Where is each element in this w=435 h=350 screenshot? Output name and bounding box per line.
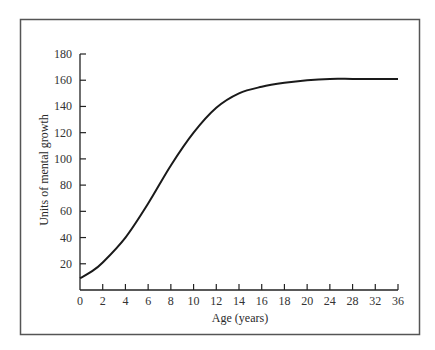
y-tick-label: 100 xyxy=(54,152,72,166)
x-tick-label: 4 xyxy=(122,294,128,308)
x-tick-label: 24 xyxy=(324,294,336,308)
y-tick-label: 180 xyxy=(54,47,72,61)
y-axis-title: Units of mental growth xyxy=(37,114,51,226)
growth-curve xyxy=(80,79,398,278)
x-tick-label: 6 xyxy=(145,294,151,308)
axes xyxy=(80,54,398,290)
y-tick-label: 40 xyxy=(60,231,72,245)
x-tick-label: 32 xyxy=(369,294,381,308)
x-tick-label: 14 xyxy=(233,294,245,308)
x-tick-label: 2 xyxy=(100,294,106,308)
y-tick-label: 20 xyxy=(60,257,72,271)
x-tick-label: 16 xyxy=(256,294,268,308)
x-tick-label: 12 xyxy=(210,294,222,308)
x-tick-label: 18 xyxy=(278,294,290,308)
x-tick-label: 0 xyxy=(77,294,83,308)
x-axis-ticks: 0246810121416182024283236 xyxy=(77,284,404,308)
x-axis-title: Age (years) xyxy=(212,311,268,325)
y-tick-label: 120 xyxy=(54,126,72,140)
x-tick-label: 28 xyxy=(347,294,359,308)
x-tick-label: 36 xyxy=(392,294,404,308)
y-tick-label: 160 xyxy=(54,73,72,87)
y-axis-ticks: 20406080100120140160180 xyxy=(54,47,86,271)
x-tick-label: 8 xyxy=(168,294,174,308)
y-tick-label: 60 xyxy=(60,204,72,218)
x-tick-label: 10 xyxy=(188,294,200,308)
y-tick-label: 80 xyxy=(60,178,72,192)
chart: 20406080100120140160180 0246810121416182… xyxy=(0,0,435,350)
y-tick-label: 140 xyxy=(54,99,72,113)
x-tick-label: 20 xyxy=(301,294,313,308)
